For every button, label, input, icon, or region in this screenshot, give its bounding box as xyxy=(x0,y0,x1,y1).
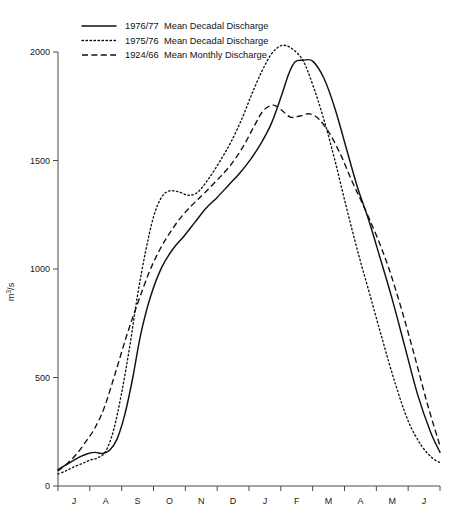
x-tick-label: N xyxy=(198,496,205,506)
x-tick-label: S xyxy=(135,496,141,506)
x-tick-label: D xyxy=(230,496,237,506)
x-tick-label: F xyxy=(294,496,300,506)
x-tick-label: J xyxy=(422,496,427,506)
y-tick-label: 1500 xyxy=(30,156,50,166)
series-line-1975-76 xyxy=(58,45,440,474)
chart-canvas: 1976/77Mean Decadal Discharge1975/76Mean… xyxy=(0,0,462,528)
y-tick-label: 2000 xyxy=(30,47,50,57)
discharge-hydrograph-chart: 1976/77Mean Decadal Discharge1975/76Mean… xyxy=(0,0,462,528)
x-tick-label: M xyxy=(389,496,397,506)
series-line-1924-66 xyxy=(58,105,440,471)
y-axis-title-group: m3/s xyxy=(5,282,17,301)
y-axis-title: m3/s xyxy=(5,282,17,301)
legend-label-description: Mean Decadal Discharge xyxy=(164,21,268,31)
chart-legend: 1976/77Mean Decadal Discharge1975/76Mean… xyxy=(82,21,268,60)
legend-label-year: 1976/77 xyxy=(125,21,159,31)
y-tick-label: 500 xyxy=(35,373,50,383)
x-tick-label: A xyxy=(357,496,363,506)
chart-series xyxy=(58,45,440,474)
x-tick-label: J xyxy=(72,496,77,506)
legend-label-year: 1975/76 xyxy=(125,36,159,46)
series-line-1976-77 xyxy=(58,59,440,469)
x-tick-label: J xyxy=(263,496,268,506)
x-tick-label: M xyxy=(325,496,333,506)
chart-axes: 0500100015002000JASONDJFMAMJ xyxy=(30,47,440,506)
y-tick-label: 1000 xyxy=(30,264,50,274)
x-tick-label: A xyxy=(103,496,109,506)
legend-label-description: Mean Decadal Discharge xyxy=(164,36,268,46)
legend-label-year: 1924/66 xyxy=(125,50,159,60)
y-axis-title-text: m3/s xyxy=(5,282,17,301)
legend-label-description: Mean Monthly Discharge xyxy=(164,50,267,60)
x-tick-label: O xyxy=(166,496,173,506)
y-tick-label: 0 xyxy=(45,481,50,491)
